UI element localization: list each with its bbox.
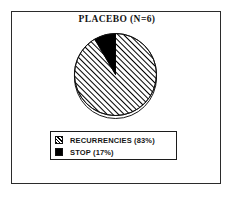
legend-swatch-solid-icon: [55, 148, 63, 156]
legend-swatch-hatch-icon: [55, 136, 63, 144]
legend-item-recurrencies: RECURRENCIES (83%): [55, 134, 176, 146]
pie-svg: [72, 29, 160, 121]
pie-chart-figure: PLACEBO (N=6) RECURRENCIES (83%): [0, 0, 234, 199]
chart-legend: RECURRENCIES (83%) STOP (17%): [50, 131, 177, 160]
legend-label-recurrencies: RECURRENCIES (83%): [70, 136, 155, 145]
legend-label-stop: STOP (17%): [70, 148, 114, 157]
chart-title: PLACEBO (N=6): [0, 14, 234, 24]
pie-chart-graphic: [72, 29, 160, 121]
legend-item-stop: STOP (17%): [55, 146, 176, 158]
